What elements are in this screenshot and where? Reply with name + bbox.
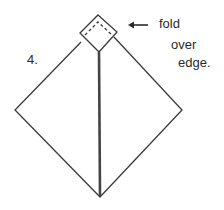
- step-number: 4.: [27, 53, 38, 66]
- arrow-left-icon: [128, 22, 148, 29]
- folding-diagram: [0, 0, 224, 210]
- folded-tip: [80, 15, 117, 52]
- instruction-line-2: over: [171, 38, 196, 51]
- instruction-line-3: edge.: [178, 56, 211, 69]
- center-crease: [99, 52, 100, 196]
- instruction-line-1: fold: [159, 17, 180, 30]
